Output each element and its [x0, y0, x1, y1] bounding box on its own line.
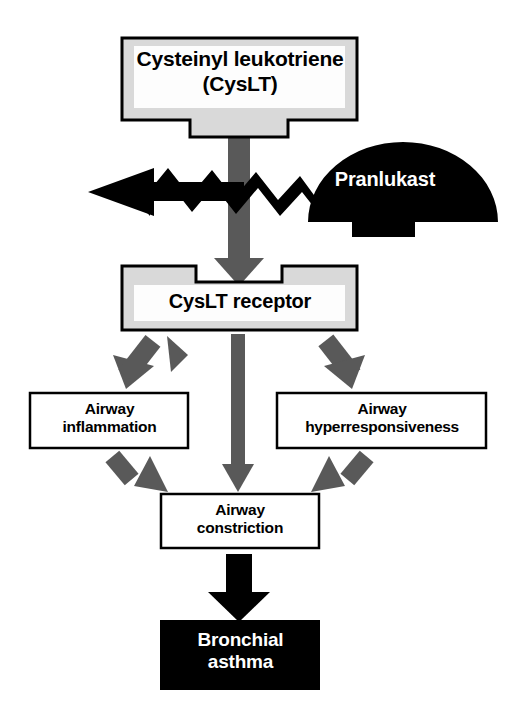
node-constriction — [161, 494, 319, 548]
connector-pranlukast-block — [88, 168, 324, 220]
connector-inflammation-to-constriction — [105, 451, 168, 492]
connector-receptor-to-inflammation — [113, 335, 188, 389]
connector-constriction-to-asthma — [208, 554, 270, 622]
node-hyperresponsiveness — [277, 393, 486, 448]
connector-receptor-to-hyperresponsiveness — [318, 335, 365, 389]
diagram-graphics — [0, 0, 521, 723]
connector-receptor-to-constriction — [222, 334, 254, 492]
node-pranlukast — [308, 142, 498, 237]
node-ligand — [122, 38, 357, 137]
diagram-canvas: Cysteinyl leukotriene (CysLT) Pranlukast… — [0, 0, 521, 723]
node-asthma — [160, 620, 320, 690]
connector-hyperresponsiveness-to-constriction — [311, 451, 374, 492]
node-inflammation — [30, 393, 188, 448]
